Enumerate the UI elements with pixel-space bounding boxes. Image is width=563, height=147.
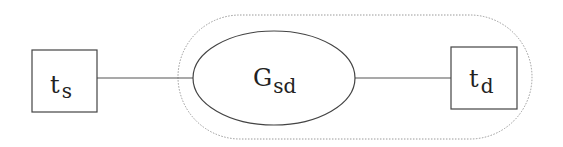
source-node: ts — [32, 50, 97, 112]
target-node-base: t — [469, 65, 479, 93]
target-node: td — [451, 47, 517, 109]
graph-node-base: G — [253, 64, 272, 92]
graph-node-subscript: sd — [273, 74, 296, 98]
diagram-canvas: ts Gsd td — [0, 0, 563, 147]
target-node-subscript: d — [481, 74, 494, 98]
source-node-subscript: s — [62, 79, 72, 103]
graph-node: Gsd — [193, 31, 355, 125]
source-node-base: t — [50, 71, 60, 99]
